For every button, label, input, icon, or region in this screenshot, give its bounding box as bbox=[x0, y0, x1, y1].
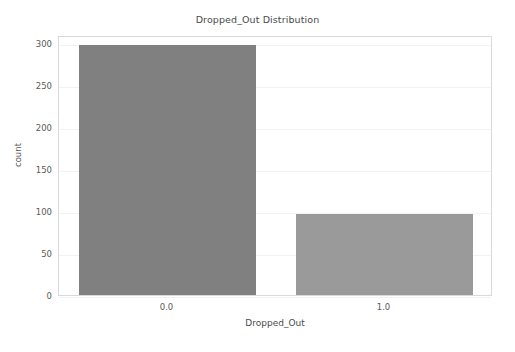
y-axis-tick-labels: 050100150200250300 bbox=[0, 36, 52, 296]
y-tick-label: 100 bbox=[0, 207, 52, 217]
y-tick-label: 0 bbox=[0, 291, 52, 301]
chart-figure: Dropped_Out Distribution 050100150200250… bbox=[0, 0, 515, 352]
x-tick-label: 0.0 bbox=[160, 302, 174, 312]
x-axis-tick-labels: 0.01.0 bbox=[58, 302, 492, 316]
x-axis-label: Dropped_Out bbox=[58, 318, 492, 328]
y-tick-label: 250 bbox=[0, 81, 52, 91]
bar-series bbox=[59, 37, 491, 295]
y-tick-label: 50 bbox=[0, 249, 52, 259]
y-tick-label: 300 bbox=[0, 39, 52, 49]
y-axis-label: count bbox=[13, 125, 23, 185]
x-tick-label: 1.0 bbox=[377, 302, 391, 312]
bar-0.0 bbox=[79, 45, 257, 295]
y-tick-label: 200 bbox=[0, 123, 52, 133]
plot-area bbox=[58, 36, 492, 296]
gridline-0 bbox=[59, 297, 491, 298]
chart-title: Dropped_Out Distribution bbox=[0, 14, 515, 25]
y-tick-label: 150 bbox=[0, 165, 52, 175]
bar-1.0 bbox=[296, 214, 474, 295]
